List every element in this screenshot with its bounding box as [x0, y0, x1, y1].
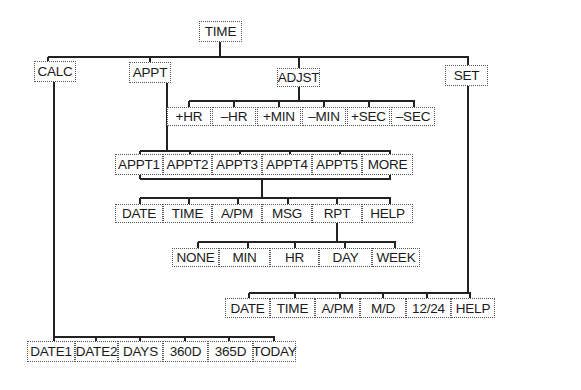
node-adjst-plus-hr: +HR	[167, 107, 211, 126]
node-adjst-minus-hr: –HR	[212, 107, 256, 126]
node-adjst-minus-sec: –SEC	[391, 107, 435, 126]
node-adjst: ADJST	[277, 68, 320, 87]
node-appt-help: HELP	[362, 204, 413, 223]
node-appt-more: MORE	[362, 154, 413, 175]
node-appt1: APPT1	[115, 154, 163, 175]
node-set: SET	[445, 65, 488, 86]
node-appt4: APPT4	[262, 154, 312, 175]
node-calc-today: TODAY	[253, 341, 296, 362]
node-set-date: DATE	[225, 298, 270, 318]
node-calc-365d: 365D	[208, 341, 253, 362]
node-adjst-plus-sec: +SEC	[347, 107, 390, 126]
node-set-md: M/D	[360, 298, 406, 318]
connector-line	[298, 87, 300, 101]
node-calc-date1: DATE1	[27, 341, 75, 362]
connector-line	[467, 86, 469, 293]
connector-line	[249, 292, 471, 294]
node-appt-apm: A/PM	[212, 204, 262, 223]
node-rpt-day: DAY	[319, 248, 372, 267]
node-appt3: APPT3	[212, 154, 262, 175]
node-rpt-week: WEEK	[372, 248, 420, 267]
connector-line	[140, 197, 391, 199]
connector-line	[467, 57, 469, 65]
connector-line	[298, 57, 300, 68]
node-rpt-none: NONE	[172, 248, 219, 267]
node-appt-time: TIME	[163, 204, 212, 223]
connector-line	[54, 336, 275, 338]
node-adjst-plus-min: +MIN	[257, 107, 301, 126]
node-set-12-24: 12/24	[406, 298, 451, 318]
node-adjst-minus-min: –MIN	[302, 107, 346, 126]
node-calc-360d: 360D	[163, 341, 208, 362]
connector-line	[219, 42, 221, 57]
connector-line	[48, 56, 469, 58]
node-calc-days: DAYS	[118, 341, 163, 362]
node-set-help: HELP	[451, 298, 495, 318]
connector-line	[261, 179, 263, 198]
node-appt2: APPT2	[163, 154, 212, 175]
node-rpt-hr: HR	[270, 248, 319, 267]
node-appt: APPT	[129, 62, 171, 83]
node-rpt-min: MIN	[219, 248, 270, 267]
node-calc-date2: DATE2	[75, 341, 118, 362]
node-calc: CALC	[34, 61, 76, 82]
connector-line	[198, 241, 396, 243]
menu-hierarchy-diagram: TIME CALC APPT ADJST SET +HR –HR +MIN –M…	[0, 0, 581, 390]
node-set-apm: A/PM	[315, 298, 360, 318]
node-appt5: APPT5	[312, 154, 362, 175]
node-time-root: TIME	[199, 21, 242, 42]
node-set-time: TIME	[270, 298, 315, 318]
connector-line	[189, 100, 415, 102]
connector-line	[53, 82, 55, 337]
connector-line	[336, 223, 338, 242]
node-appt-rpt: RPT	[312, 204, 362, 223]
connector-line	[140, 150, 391, 152]
node-appt-date: DATE	[115, 204, 163, 223]
node-appt-msg: MSG	[262, 204, 312, 223]
connector-line	[140, 178, 391, 180]
